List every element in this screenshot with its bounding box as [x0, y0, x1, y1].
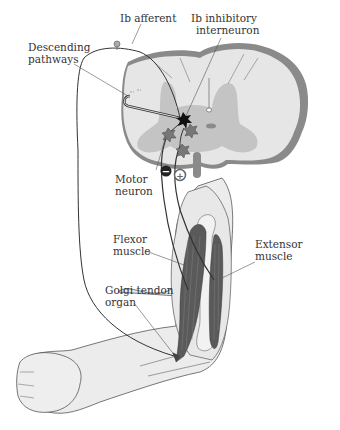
label-motor-2: neuron [115, 185, 153, 197]
label-motor-1: Motor [115, 173, 149, 185]
label-descending-2: pathways [28, 53, 79, 65]
label-flexor-2: muscle [113, 245, 151, 257]
svg-text:+: + [176, 171, 184, 181]
label-extensor-2: muscle [255, 250, 293, 262]
dorsal-root-ganglion [114, 41, 120, 47]
label-extensor-1: Extensor [255, 238, 303, 250]
label-descending-1: Descending [28, 41, 91, 53]
golgi-tendon-reflex-diagram: − + Ib afferent Ib inhibitory interneuro… [0, 0, 340, 430]
central-canal [206, 124, 216, 129]
label-ib-inhibitory-1: Ib inhibitory [191, 12, 257, 24]
dorsal-root-entry [193, 152, 201, 178]
label-ib-inhibitory-2: interneuron [196, 24, 260, 36]
label-golgi-2: organ [105, 296, 136, 308]
label-flexor-1: Flexor [113, 233, 148, 245]
svg-text:−: − [162, 166, 170, 177]
label-golgi-1: Golgi tendon [105, 284, 174, 296]
label-ib-afferent: Ib afferent [120, 12, 177, 24]
inhibitory-symbol: − [161, 166, 172, 177]
excitatory-symbol: + [175, 170, 186, 181]
